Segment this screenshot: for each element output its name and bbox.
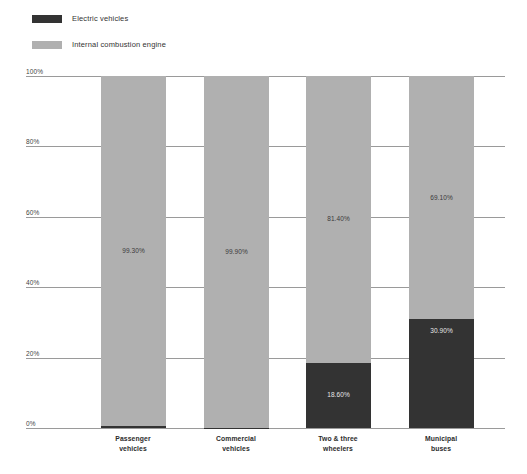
bar-segment-internal-combustion-engine[interactable]: 99.90% <box>204 76 269 428</box>
category-label-passenger-vehicles: Passenger vehicles <box>87 434 179 453</box>
category-label-line2: buses <box>395 444 487 454</box>
bar-label-internal-combustion-engine: 99.30% <box>122 247 145 255</box>
bar-label-internal-combustion-engine: 81.40% <box>327 215 350 223</box>
bar-label-internal-combustion-engine: 69.10% <box>430 194 453 202</box>
bar-group-passenger-vehicles[interactable]: 99.30% <box>101 76 166 428</box>
bar-label-internal-combustion-engine: 99.90% <box>225 248 248 256</box>
bar-segment-internal-combustion-engine[interactable]: 99.30% <box>101 76 166 426</box>
category-label-municipal-buses: Municipal buses <box>395 434 487 453</box>
bar-label-electric-vehicles: 30.90% <box>409 327 474 335</box>
category-label-commercial-vehicles: Commercial vehicles <box>190 434 282 453</box>
category-label-line2: wheelers <box>292 444 384 454</box>
plot-area: 100% 80% 60% 40% 20% 0% 99.30% <box>0 0 527 474</box>
bar-segment-electric-vehicles[interactable]: 18.60% <box>306 363 371 428</box>
bar-segment-electric-vehicles[interactable]: 30.90% <box>409 319 474 428</box>
category-label-line1: Two & three <box>292 434 384 444</box>
bar-group-two-and-three-wheelers[interactable]: 18.60% 81.40% <box>306 76 371 428</box>
bar-group-municipal-buses[interactable]: 30.90% 69.10% <box>409 76 474 428</box>
stacked-bar-chart: Electric vehicles Internal combustion en… <box>0 0 527 474</box>
bar-segment-internal-combustion-engine[interactable]: 81.40% <box>306 76 371 363</box>
category-label-line2: vehicles <box>190 444 282 454</box>
category-label-two-and-three-wheelers: Two & three wheelers <box>292 434 384 453</box>
bar-segment-electric-vehicles[interactable] <box>101 426 166 428</box>
category-label-line2: vehicles <box>87 444 179 454</box>
bar-segment-internal-combustion-engine[interactable]: 69.10% <box>409 76 474 319</box>
category-label-line1: Passenger <box>87 434 179 444</box>
category-label-line1: Municipal <box>395 434 487 444</box>
bar-series-container: 99.30% 99.90% 18.60% 81.40% <box>0 0 527 474</box>
bar-group-commercial-vehicles[interactable]: 99.90% <box>204 76 269 428</box>
bar-label-electric-vehicles: 18.60% <box>327 391 350 399</box>
category-label-line1: Commercial <box>190 434 282 444</box>
